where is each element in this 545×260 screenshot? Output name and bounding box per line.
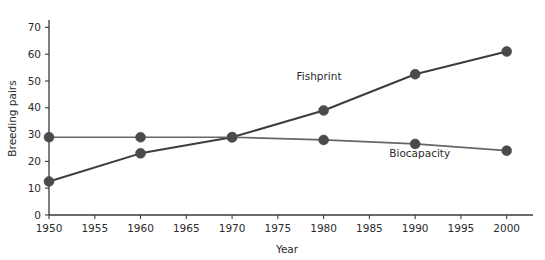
- data-point-biocapacity-1950: [44, 132, 54, 142]
- data-point-fishprint-1950: [44, 176, 54, 186]
- y-tick-label: 50: [28, 75, 41, 87]
- series-label-fishprint: Fishprint: [297, 70, 342, 82]
- data-point-fishprint-2000: [502, 46, 512, 56]
- data-point-biocapacity-1970: [227, 132, 237, 142]
- data-point-biocapacity-1980: [319, 135, 329, 145]
- line-chart: 010203040506070 195019551960196519701975…: [0, 0, 545, 260]
- x-tick-label: 1995: [448, 222, 475, 234]
- x-tick-label: 2000: [493, 222, 520, 234]
- x-tick-label: 1960: [127, 222, 154, 234]
- x-tick-label: 1985: [356, 222, 383, 234]
- x-tick-label: 1955: [81, 222, 108, 234]
- y-tick-label: 20: [28, 155, 41, 167]
- y-tick-label: 70: [28, 21, 41, 33]
- y-axis-ticks: 010203040506070: [28, 21, 49, 221]
- series-label-biocapacity: Biocapacity: [389, 147, 450, 159]
- data-point-fishprint-1980: [319, 105, 329, 115]
- y-tick-label: 10: [28, 182, 41, 194]
- y-tick-label: 60: [28, 48, 41, 60]
- y-axis-title: Breeding pairs: [6, 80, 18, 156]
- y-tick-label: 30: [28, 128, 41, 140]
- x-tick-label: 1990: [402, 222, 429, 234]
- x-axis-ticks: 1950195519601965197019751980198519901995…: [36, 215, 520, 234]
- data-series-group: [44, 46, 512, 186]
- x-tick-label: 1980: [310, 222, 337, 234]
- x-axis-title: Year: [275, 243, 299, 255]
- data-point-biocapacity-1960: [136, 132, 146, 142]
- data-point-fishprint-1990: [410, 69, 420, 79]
- y-tick-label: 0: [34, 209, 41, 221]
- series-line-fishprint: [49, 51, 507, 181]
- y-tick-label: 40: [28, 101, 41, 113]
- data-point-fishprint-1960: [136, 148, 146, 158]
- chart-canvas: 010203040506070 195019551960196519701975…: [0, 0, 545, 260]
- data-point-biocapacity-2000: [502, 146, 512, 156]
- x-tick-label: 1970: [219, 222, 246, 234]
- x-tick-label: 1965: [173, 222, 200, 234]
- x-tick-label: 1975: [264, 222, 291, 234]
- series-labels-group: FishprintBiocapacity: [297, 70, 451, 160]
- x-tick-label: 1950: [36, 222, 63, 234]
